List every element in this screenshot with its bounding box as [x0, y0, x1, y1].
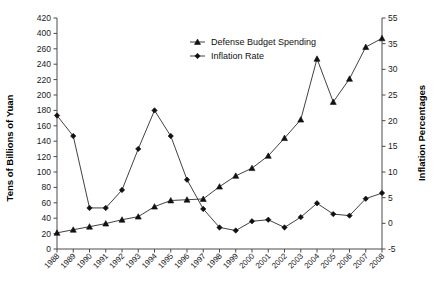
- data-point-marker: [379, 190, 384, 195]
- x-axis-tick-label: 2001: [254, 251, 273, 270]
- data-point-marker: [217, 184, 223, 189]
- data-point-marker: [168, 133, 173, 138]
- left-axis-tick-label: 180: [37, 105, 51, 115]
- x-axis-tick-label: 2003: [286, 251, 305, 270]
- data-point-marker: [249, 165, 255, 170]
- data-point-marker: [331, 211, 336, 216]
- x-axis-tick-label: 2006: [335, 251, 354, 270]
- chart-figure: 0204060801001201401601802002202402604004…: [0, 0, 436, 295]
- data-point-marker: [233, 228, 238, 233]
- data-point-marker: [314, 56, 320, 61]
- left-axis-tick-label: 220: [37, 75, 51, 85]
- left-axis-tick-label: 200: [37, 90, 51, 100]
- left-axis-tick-label: 120: [37, 152, 51, 162]
- right-axis-tick-label: 20: [388, 116, 398, 126]
- data-point-marker: [87, 205, 92, 210]
- data-point-marker: [135, 214, 141, 219]
- legend-item-inflation-rate: Inflation Rate: [190, 51, 264, 61]
- data-point-marker: [282, 225, 287, 230]
- right-axis-tick-label: 15: [388, 141, 398, 151]
- data-point-marker: [152, 204, 158, 209]
- right-axis-tick-label: 5: [388, 193, 393, 203]
- x-axis-tick-label: 1990: [75, 251, 94, 270]
- data-point-marker: [195, 53, 200, 58]
- right-axis-tick-label: 25: [388, 90, 398, 100]
- left-axis-tick-label: 100: [37, 167, 51, 177]
- data-point-marker: [379, 35, 385, 40]
- data-point-marker: [266, 217, 271, 222]
- left-axis-tick-label: 20: [42, 229, 52, 239]
- right-axis-tick-label: 55: [388, 13, 398, 23]
- x-axis-tick-label: 2004: [302, 251, 321, 270]
- left-axis-tick-label: 140: [37, 136, 51, 146]
- x-axis-tick-label: 1989: [59, 251, 78, 270]
- left-axis-tick-label: 60: [42, 198, 52, 208]
- chart-legend: Defense Budget SpendingInflation Rate: [190, 37, 316, 61]
- left-axis-tick-label: 0: [46, 244, 51, 254]
- data-point-marker: [347, 76, 353, 81]
- x-axis-tick-label: 1995: [156, 251, 175, 270]
- left-axis-tick-label: 40: [42, 213, 52, 223]
- x-axis-tick-label: 1996: [172, 251, 191, 270]
- left-axis-tick-label: 260: [37, 44, 51, 54]
- x-axis-tick-label: 2000: [237, 251, 256, 270]
- right-axis-tick-label: -5: [388, 244, 396, 254]
- data-point-marker: [363, 44, 369, 49]
- right-axis-tick-label: 10: [388, 167, 398, 177]
- x-axis-tick-label: 1991: [91, 251, 110, 270]
- x-axis: 1988198919901991199219931994199519961997…: [42, 249, 386, 270]
- right-axis-title: Inflation Percentages: [416, 85, 427, 181]
- left-axis: 0204060801001201401601802002202402604004…: [37, 13, 57, 254]
- data-point-marker: [184, 177, 189, 182]
- series-inflation-rate: [54, 108, 384, 234]
- x-axis-tick-label: 1993: [124, 251, 143, 270]
- x-axis-tick-label: 2007: [351, 251, 370, 270]
- data-point-marker: [233, 173, 239, 178]
- x-axis-tick-label: 2002: [270, 251, 289, 270]
- legend-item-defense-budget-spending: Defense Budget Spending: [190, 37, 316, 47]
- x-axis-tick-label: 1997: [189, 251, 208, 270]
- legend-label: Inflation Rate: [211, 51, 264, 61]
- x-axis-tick-label: 2008: [367, 251, 386, 270]
- chart-canvas: 0204060801001201401601802002202402604004…: [0, 0, 436, 295]
- legend-label: Defense Budget Spending: [211, 37, 316, 47]
- x-axis-tick-label: 1994: [140, 251, 159, 270]
- right-axis-tick-label: 30: [388, 64, 398, 74]
- x-axis-tick-label: 2005: [319, 251, 338, 270]
- series-plot-area: [54, 35, 385, 235]
- data-point-marker: [249, 219, 254, 224]
- series-defense-budget-spending: [54, 35, 385, 235]
- data-point-marker: [330, 99, 336, 104]
- left-axis-tick-label: 400: [37, 28, 51, 38]
- right-axis: -50510152025303555: [382, 13, 398, 254]
- left-axis-tick-label: 420: [37, 13, 51, 23]
- data-point-marker: [136, 146, 141, 151]
- left-axis-tick-label: 80: [42, 182, 52, 192]
- data-point-marker: [298, 117, 304, 122]
- x-axis-tick-label: 1998: [205, 251, 224, 270]
- x-axis-tick-label: 1999: [221, 251, 240, 270]
- right-axis-tick-label: 0: [388, 218, 393, 228]
- left-axis-tick-label: 160: [37, 121, 51, 131]
- x-axis-tick-label: 1988: [42, 251, 61, 270]
- left-axis-tick-label: 240: [37, 59, 51, 69]
- right-axis-tick-label: 35: [388, 39, 398, 49]
- data-point-marker: [152, 108, 157, 113]
- x-axis-tick-label: 1992: [107, 251, 126, 270]
- left-axis-title: Tens of Billions of Yuan: [4, 94, 15, 201]
